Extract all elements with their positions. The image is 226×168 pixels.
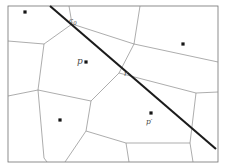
edge-right-t-down: [190, 93, 196, 143]
site-top-right: [181, 42, 184, 45]
label-r: r: [124, 69, 128, 78]
label-p-prime-mark: ′: [151, 118, 153, 126]
edge-center-up: [91, 73, 119, 101]
edge-left-upper: [8, 41, 44, 44]
voronoi-figure: c0 p r p′: [0, 0, 226, 168]
figure-border: [8, 6, 218, 162]
voronoi-diagram-canvas: c0 p r p′: [0, 0, 226, 168]
voronoi-edges: [8, 6, 218, 162]
edge-top-right-diag: [134, 44, 218, 62]
edge-mid-bottom-left: [65, 131, 86, 162]
edge-mid-vert-1: [86, 101, 91, 131]
site-p-prime: [149, 111, 152, 114]
edge-right-bottom: [190, 143, 193, 162]
edge-right-t-up: [196, 92, 218, 93]
edge-mid-bottom-down: [126, 143, 129, 162]
edge-left-mid-down: [38, 44, 44, 90]
site-top-left: [23, 10, 26, 13]
label-c0-subscript: 0: [73, 20, 77, 26]
edge-left-bottom-down: [38, 90, 44, 158]
edge-top-mid-up: [134, 6, 140, 44]
edge-c0-down-left: [44, 24, 72, 44]
label-p-prime: p′: [146, 117, 153, 126]
edge-mid-left-down: [38, 90, 91, 101]
label-c0: c0: [69, 16, 77, 26]
site-bottom-left: [58, 118, 61, 121]
label-p: p: [77, 56, 83, 66]
site-p: [84, 60, 87, 63]
edge-mid-bottom-right: [86, 131, 126, 143]
voronoi-sites: [23, 10, 184, 121]
edge-left-lower-out: [8, 90, 38, 96]
query-segment-line: [50, 6, 216, 149]
edge-bottom-left-diag: [44, 158, 47, 162]
